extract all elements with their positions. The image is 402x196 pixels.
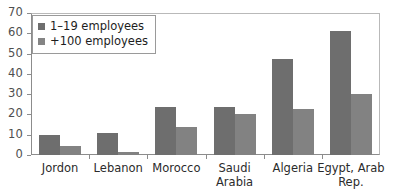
legend-swatch-dark xyxy=(38,23,45,30)
x-axis-label-line: Egypt, Arab xyxy=(316,162,386,176)
y-tick-label: 40 xyxy=(8,68,23,80)
x-tick-mark xyxy=(322,155,323,159)
bar xyxy=(97,133,118,155)
x-axis-labels: JordonLebanonMoroccoSaudiArabiaAlgeriaEg… xyxy=(31,162,380,196)
y-tick-label: 10 xyxy=(8,129,23,141)
x-axis-label-line: Rep. xyxy=(316,176,386,190)
y-tick-label: 30 xyxy=(8,88,23,100)
bar-group xyxy=(147,13,205,155)
bar xyxy=(235,114,256,155)
y-tick-label: 60 xyxy=(8,28,23,40)
legend-label: +100 employees xyxy=(50,36,148,48)
x-axis-label: Egypt, ArabRep. xyxy=(316,162,386,189)
y-tick-label: 0 xyxy=(15,149,23,161)
x-tick-mark xyxy=(206,155,207,159)
bar xyxy=(293,109,314,155)
bar xyxy=(155,107,176,155)
bar xyxy=(39,135,60,155)
bar xyxy=(351,94,372,155)
x-tick-mark xyxy=(147,155,148,159)
legend-swatch-light xyxy=(38,38,45,45)
bar-group xyxy=(322,13,380,155)
bar-group xyxy=(206,13,264,155)
bar xyxy=(60,146,81,155)
x-tick-mark xyxy=(264,155,265,159)
legend-item: +100 employees xyxy=(38,34,148,49)
legend: 1–19 employees+100 employees xyxy=(32,15,156,54)
bar xyxy=(330,31,351,155)
x-axis-label-line: Arabia xyxy=(200,176,270,190)
bar-chart: 010203040506070 JordonLebanonMoroccoSaud… xyxy=(0,0,402,196)
bar-group xyxy=(264,13,322,155)
y-tick-label: 70 xyxy=(8,7,23,19)
y-tick-label: 50 xyxy=(8,48,23,60)
x-tick-mark xyxy=(89,155,90,159)
bar xyxy=(214,107,235,155)
bar xyxy=(272,59,293,155)
bar xyxy=(176,127,197,155)
legend-item: 1–19 employees xyxy=(38,19,148,34)
y-tick-label: 20 xyxy=(8,109,23,121)
legend-label: 1–19 employees xyxy=(50,21,144,33)
x-axis-ticks xyxy=(31,155,380,160)
